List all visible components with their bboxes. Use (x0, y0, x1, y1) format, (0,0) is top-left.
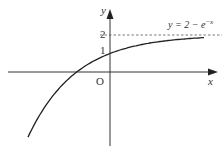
graph: y 2 1 O x y = 2 − e−x (0, 0, 224, 149)
curve (28, 38, 204, 138)
tick-label-1: 1 (100, 45, 106, 56)
y-axis-label: y (101, 5, 106, 16)
tick-label-2: 2 (100, 29, 106, 40)
x-axis-label: x (208, 76, 213, 87)
y-axis-arrow-icon (107, 9, 114, 19)
equation-label: y = 2 − e−x (168, 19, 213, 30)
origin-label: O (96, 76, 104, 87)
